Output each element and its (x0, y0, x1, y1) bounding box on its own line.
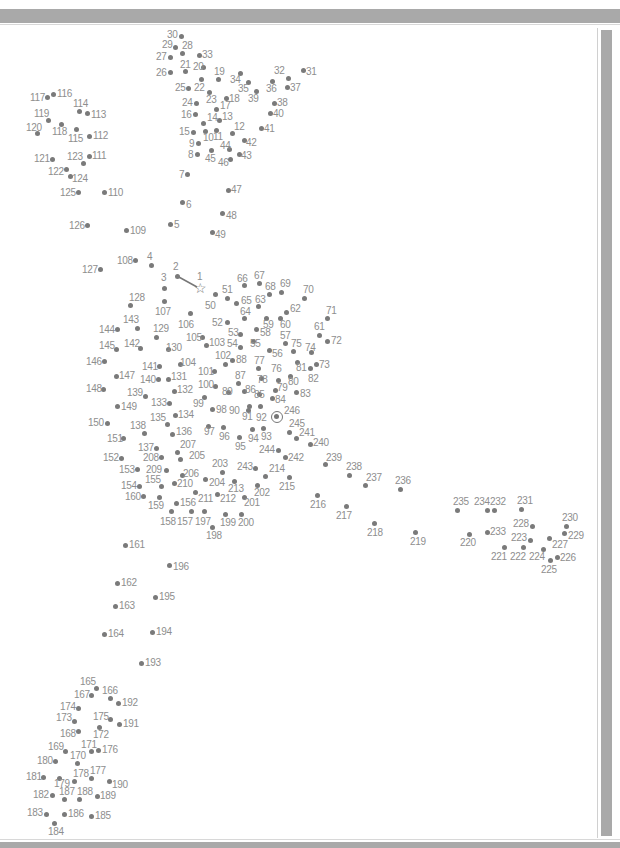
puzzle-dot[interactable] (76, 729, 81, 734)
puzzle-dot[interactable] (317, 333, 322, 338)
puzzle-dot[interactable] (105, 421, 110, 426)
puzzle-dot[interactable] (128, 303, 133, 308)
puzzle-dot[interactable] (216, 77, 221, 82)
puzzle-dot[interactable] (238, 345, 243, 350)
puzzle-dot[interactable] (170, 432, 175, 437)
puzzle-dot[interactable] (50, 793, 55, 798)
puzzle-dot[interactable] (220, 470, 225, 475)
puzzle-dot[interactable] (179, 34, 184, 39)
puzzle-dot[interactable] (197, 53, 202, 58)
puzzle-dot[interactable] (250, 427, 255, 432)
puzzle-dot[interactable] (285, 85, 290, 90)
puzzle-dot[interactable] (85, 223, 90, 228)
puzzle-dot[interactable] (291, 349, 296, 354)
puzzle-dot[interactable] (168, 222, 173, 227)
puzzle-dot[interactable] (201, 121, 206, 126)
puzzle-dot[interactable] (135, 467, 140, 472)
puzzle-dot[interactable] (173, 413, 178, 418)
puzzle-dot[interactable] (294, 390, 299, 395)
puzzle-dot[interactable] (210, 407, 215, 412)
puzzle-dot[interactable] (117, 722, 122, 727)
puzzle-dot[interactable] (485, 508, 490, 513)
puzzle-dot[interactable] (254, 327, 259, 332)
puzzle-dot[interactable] (62, 797, 67, 802)
puzzle-dot[interactable] (115, 404, 120, 409)
start-star-icon[interactable]: ☆ (194, 281, 207, 295)
puzzle-dot[interactable] (268, 111, 273, 116)
puzzle-dot[interactable] (154, 446, 159, 451)
puzzle-dot[interactable] (193, 112, 198, 117)
puzzle-dot[interactable] (204, 343, 209, 348)
puzzle-dot[interactable] (530, 524, 535, 529)
puzzle-dot[interactable] (234, 301, 239, 306)
puzzle-dot[interactable] (267, 348, 272, 353)
puzzle-dot[interactable] (89, 776, 94, 781)
puzzle-dot[interactable] (286, 76, 291, 81)
puzzle-dot[interactable] (467, 532, 472, 537)
puzzle-dot[interactable] (261, 426, 266, 431)
puzzle-dot[interactable] (164, 468, 169, 473)
puzzle-dot[interactable] (193, 490, 198, 495)
puzzle-dot[interactable] (107, 779, 112, 784)
puzzle-dot[interactable] (547, 536, 552, 541)
puzzle-dot[interactable] (363, 483, 368, 488)
puzzle-dot[interactable] (114, 374, 119, 379)
puzzle-dot[interactable] (156, 377, 161, 382)
puzzle-dot[interactable] (188, 311, 193, 316)
puzzle-dot[interactable] (173, 45, 178, 50)
puzzle-dot[interactable] (45, 95, 50, 100)
puzzle-dot[interactable] (95, 794, 100, 799)
puzzle-dot[interactable] (189, 509, 194, 514)
puzzle-dot[interactable] (123, 543, 128, 548)
puzzle-dot[interactable] (239, 512, 244, 517)
puzzle-dot[interactable] (76, 190, 81, 195)
puzzle-dot[interactable] (283, 455, 288, 460)
puzzle-dot[interactable] (162, 299, 167, 304)
puzzle-dot[interactable] (287, 430, 292, 435)
puzzle-dot[interactable] (139, 661, 144, 666)
puzzle-dot[interactable] (203, 477, 208, 482)
puzzle-dot[interactable] (225, 296, 230, 301)
puzzle-dot[interactable] (555, 555, 560, 560)
puzzle-dot[interactable] (153, 595, 158, 600)
puzzle-dot[interactable] (521, 545, 526, 550)
puzzle-dot[interactable] (143, 394, 148, 399)
puzzle-dot[interactable] (124, 228, 129, 233)
puzzle-dot[interactable] (175, 450, 180, 455)
puzzle-dot[interactable] (213, 292, 218, 297)
puzzle-dot[interactable] (115, 327, 120, 332)
puzzle-dot[interactable] (72, 719, 77, 724)
puzzle-dot[interactable] (89, 814, 94, 819)
puzzle-dot[interactable] (62, 812, 67, 817)
puzzle-dot[interactable] (162, 286, 167, 291)
puzzle-dot[interactable] (135, 326, 140, 331)
puzzle-dot[interactable] (202, 509, 207, 514)
puzzle-dot[interactable] (172, 481, 177, 486)
puzzle-dot[interactable] (44, 812, 49, 817)
puzzle-dot[interactable] (180, 200, 185, 205)
puzzle-dot[interactable] (168, 55, 173, 60)
puzzle-dot[interactable] (77, 109, 82, 114)
puzzle-dot[interactable] (398, 487, 403, 492)
puzzle-dot[interactable] (294, 436, 299, 441)
puzzle-dot[interactable] (133, 258, 138, 263)
puzzle-dot[interactable] (51, 92, 56, 97)
puzzle-dot[interactable] (119, 456, 124, 461)
puzzle-dot[interactable] (223, 362, 228, 367)
puzzle-dot[interactable] (180, 51, 185, 56)
puzzle-dot[interactable] (50, 157, 55, 162)
puzzle-dot[interactable] (502, 545, 507, 550)
puzzle-dot[interactable] (270, 396, 275, 401)
puzzle-dot[interactable] (178, 457, 183, 462)
puzzle-dot[interactable] (102, 632, 107, 637)
puzzle-dot[interactable] (64, 167, 69, 172)
puzzle-dot[interactable] (209, 148, 214, 153)
puzzle-dot[interactable] (149, 263, 154, 268)
puzzle-dot[interactable] (253, 466, 258, 471)
puzzle-dot[interactable] (528, 538, 533, 543)
puzzle-dot[interactable] (287, 475, 292, 480)
puzzle-dot[interactable] (113, 604, 118, 609)
puzzle-dot[interactable] (194, 101, 199, 106)
puzzle-dot[interactable] (98, 267, 103, 272)
puzzle-dot[interactable] (223, 512, 228, 517)
